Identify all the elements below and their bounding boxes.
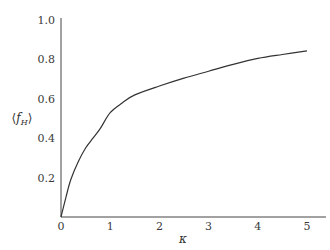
y-tick-labels: 0.20.40.60.81.0 xyxy=(38,14,56,185)
x-tick-label: 5 xyxy=(304,220,311,233)
y-tick-label: 0.6 xyxy=(38,93,56,106)
y-tick-label: 0.4 xyxy=(38,132,56,145)
x-tick-label: 2 xyxy=(156,220,163,233)
y-axis-label: ⟨fH⟩ xyxy=(12,111,33,127)
x-tick-label: 0 xyxy=(58,220,65,233)
y-tick-label: 1.0 xyxy=(38,14,56,27)
x-tick-label: 3 xyxy=(205,220,212,233)
chart-canvas: 012345 0.20.40.60.81.0 κ ⟨fH⟩ xyxy=(0,0,330,250)
y-tick-label: 0.2 xyxy=(38,172,56,185)
y-tick-label: 0.8 xyxy=(38,53,56,66)
x-tick-label: 1 xyxy=(107,220,114,233)
x-tick-label: 4 xyxy=(254,220,261,233)
x-axis-label: κ xyxy=(178,232,187,246)
data-curve xyxy=(61,51,307,217)
y-label-close: ⟩ xyxy=(28,111,33,125)
